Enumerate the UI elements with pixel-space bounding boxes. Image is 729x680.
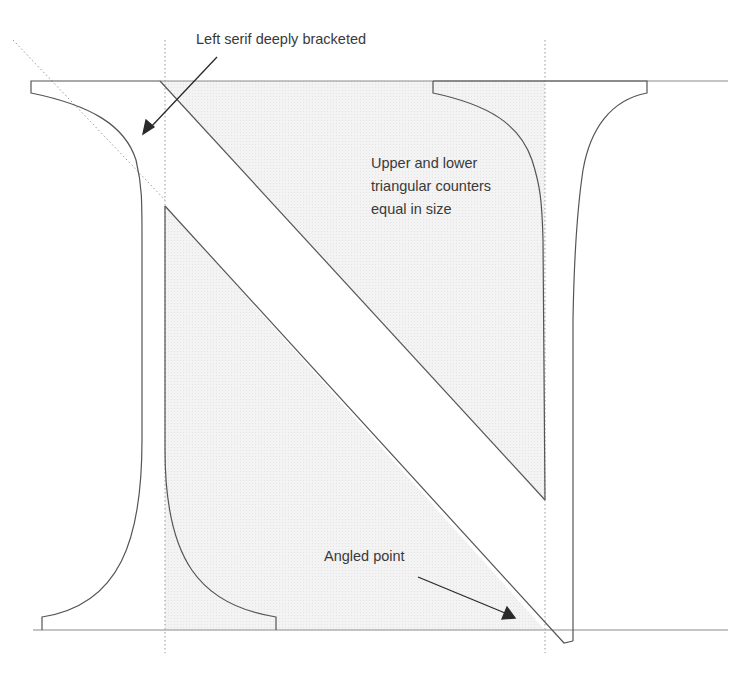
- letter-n-diagram: [0, 0, 729, 680]
- left-serif-arrowhead: [143, 120, 154, 134]
- counters-label: Upper and lower triangular counters equa…: [371, 152, 491, 221]
- left-stem-outer: [31, 81, 160, 630]
- counters-label-line-3: equal in size: [371, 198, 491, 221]
- counters-label-line-1: Upper and lower: [371, 152, 491, 175]
- diagram-canvas: Left serif deeply bracketed Upper and lo…: [0, 0, 729, 680]
- counters-label-line-2: triangular counters: [371, 175, 491, 198]
- left-serif-label: Left serif deeply bracketed: [196, 29, 366, 50]
- diagonal-guide: [13, 40, 165, 200]
- angled-point-label: Angled point: [324, 546, 405, 567]
